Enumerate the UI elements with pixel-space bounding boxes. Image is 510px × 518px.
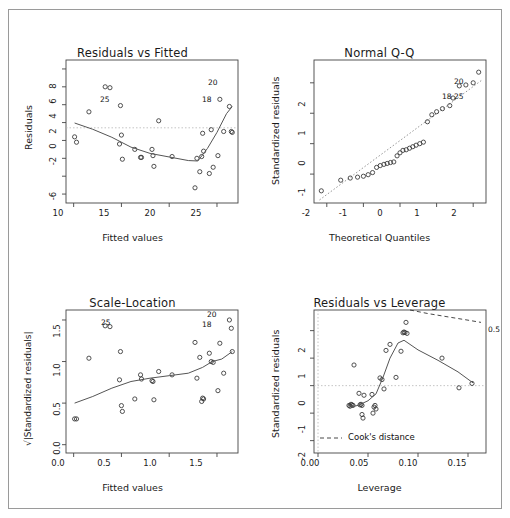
cooks-distance-legend-label: Cook's distance — [348, 432, 415, 442]
outlier-label: 25 — [454, 92, 464, 101]
plot-canvas-3 — [9, 260, 256, 510]
panel-residuals-vs-leverage: Residuals vs Leverage Standardized resid… — [256, 260, 503, 510]
plot-canvas-4 — [256, 260, 503, 510]
panel-normal-qq: Normal Q-Q Standardized residuals Theore… — [256, 10, 503, 260]
outlier-label: 20 — [207, 310, 217, 319]
outlier-label: 20 — [454, 77, 464, 86]
outlier-label: 25 — [100, 95, 110, 104]
panel-scale-location: Scale-Location √|Standardized residuals|… — [9, 260, 256, 510]
figure-frame: Residuals vs Fitted Residuals Fitted val… — [8, 9, 502, 509]
cooks-contour-label: 0.5 — [488, 325, 500, 334]
outlier-label: 25 — [101, 318, 111, 327]
outlier-label: 18 — [442, 92, 452, 101]
outlier-label: 18 — [202, 95, 212, 104]
plot-canvas-1 — [9, 10, 256, 260]
panel-residuals-vs-fitted: Residuals vs Fitted Residuals Fitted val… — [9, 10, 256, 260]
plot-canvas-2 — [256, 10, 503, 260]
outlier-label: 20 — [208, 78, 218, 87]
outlier-label: 18 — [202, 320, 212, 329]
